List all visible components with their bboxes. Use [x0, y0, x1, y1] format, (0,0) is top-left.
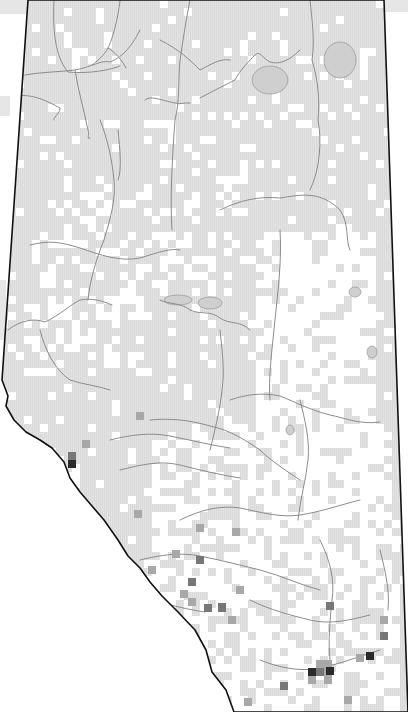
density-cell — [134, 510, 142, 518]
outside-strip — [0, 0, 28, 14]
outside-strip — [0, 96, 10, 116]
density-cell — [324, 676, 332, 684]
density-cell — [228, 616, 236, 624]
density-cell — [180, 590, 188, 598]
alberta-distribution-map — [0, 0, 408, 712]
density-cell — [68, 460, 76, 468]
density-cell — [316, 668, 324, 676]
map-canvas — [0, 0, 408, 712]
density-cell — [280, 682, 288, 690]
density-cell — [172, 550, 180, 558]
density-cell — [148, 566, 156, 574]
outside-strip — [384, 0, 408, 12]
density-cell — [218, 603, 226, 611]
lake — [286, 425, 294, 435]
lake — [164, 295, 192, 305]
density-cell — [344, 696, 352, 704]
density-cell — [380, 632, 388, 640]
lake — [367, 346, 377, 358]
density-cell — [380, 616, 388, 624]
density-cell — [136, 412, 144, 420]
density-cell — [68, 452, 76, 460]
density-cell — [236, 586, 244, 594]
density-cell — [204, 604, 212, 612]
density-cell — [244, 698, 252, 706]
density-cell — [316, 660, 324, 668]
density-cell — [188, 598, 196, 606]
density-cell — [324, 660, 332, 668]
density-cell — [366, 652, 374, 660]
density-cell — [308, 676, 316, 684]
density-cell — [196, 556, 204, 564]
density-cell — [216, 688, 224, 696]
density-cell — [232, 528, 240, 536]
density-cell — [308, 668, 316, 676]
density-cell — [326, 667, 334, 675]
density-cell — [188, 578, 196, 586]
density-cell — [196, 524, 204, 532]
lake — [349, 287, 361, 297]
density-cell — [82, 440, 90, 448]
density-cell — [356, 654, 364, 662]
lake — [252, 66, 288, 94]
density-cell — [326, 602, 334, 610]
lake — [198, 297, 222, 309]
lake — [324, 42, 356, 78]
